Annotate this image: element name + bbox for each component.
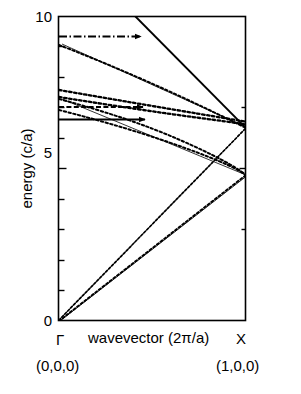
plot-canvas — [0, 0, 301, 394]
band-descending-thin-2 — [62, 99, 246, 175]
plot-frame — [59, 17, 246, 321]
band-descending-thin-1 — [62, 44, 246, 127]
y-minor-ticks — [59, 47, 67, 291]
band-structure-figure: energy (c/a) 10 5 0 Γ wavevector (2π/a) … — [0, 0, 301, 394]
band-descending-dotted-1 — [59, 45, 246, 128]
band-acoustic-lower — [59, 175, 246, 321]
annotation-arrows — [59, 37, 145, 120]
band-acoustic-lower-solid — [60, 177, 246, 322]
